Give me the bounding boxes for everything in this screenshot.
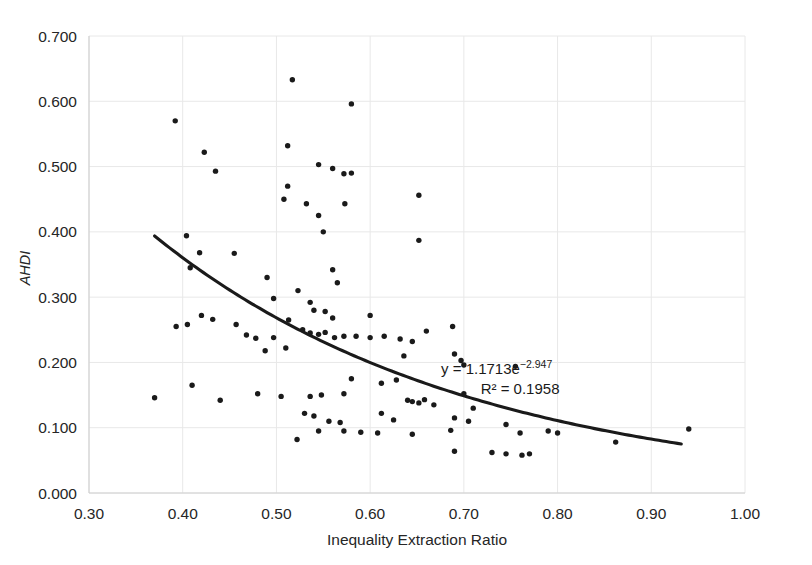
data-point: [450, 324, 455, 329]
x-tick-label: 0.90: [636, 505, 667, 522]
data-point: [382, 334, 387, 339]
y-tick-label: 0.500: [38, 158, 77, 175]
data-point: [290, 77, 295, 82]
equation-base: R² = 0.1958: [481, 380, 560, 397]
equation-annotation: R² = 0.1958: [481, 380, 560, 397]
data-point: [452, 415, 457, 420]
data-point: [517, 430, 522, 435]
axis-lines-group: [89, 36, 745, 493]
data-point: [405, 398, 410, 403]
y-tick-label: 0.400: [38, 223, 77, 240]
data-point: [416, 400, 421, 405]
data-point: [233, 322, 238, 327]
data-point: [294, 437, 299, 442]
data-point: [285, 143, 290, 148]
data-point: [342, 201, 347, 206]
data-points-group: [152, 77, 692, 458]
chart-figure: 0.0000.1000.2000.3000.4000.5000.6000.700…: [0, 0, 812, 565]
annotations-group: y = 1.1713e−2.947R² = 0.1958: [441, 358, 559, 397]
data-point: [255, 391, 260, 396]
exponential-trendline: [155, 236, 682, 444]
data-point: [202, 150, 207, 155]
x-tick-label: 0.70: [449, 505, 480, 522]
data-point: [686, 426, 691, 431]
data-point: [185, 322, 190, 327]
data-point: [197, 250, 202, 255]
data-point: [391, 417, 396, 422]
data-point: [173, 324, 178, 329]
data-point: [330, 166, 335, 171]
data-point: [322, 330, 327, 335]
data-point: [471, 405, 476, 410]
data-point: [232, 251, 237, 256]
y-axis-title: AHDI: [17, 251, 33, 287]
data-point: [244, 332, 249, 337]
data-point: [210, 317, 215, 322]
data-point: [335, 280, 340, 285]
x-tick-label: 1.00: [730, 505, 761, 522]
data-point: [321, 229, 326, 234]
data-point: [394, 377, 399, 382]
data-point: [410, 432, 415, 437]
equation-annotation: y = 1.1713e−2.947: [441, 358, 552, 377]
x-tick-label: 0.80: [542, 505, 573, 522]
data-point: [332, 335, 337, 340]
data-point: [322, 309, 327, 314]
x-axis-title: Inequality Extraction Ratio: [327, 531, 507, 548]
data-point: [283, 345, 288, 350]
data-point: [271, 335, 276, 340]
data-point: [295, 288, 300, 293]
data-point: [337, 420, 342, 425]
x-tick-label: 0.40: [168, 505, 199, 522]
data-point: [184, 233, 189, 238]
data-point: [613, 439, 618, 444]
data-point: [452, 449, 457, 454]
data-point: [218, 398, 223, 403]
data-point: [271, 296, 276, 301]
y-tick-label: 0.100: [38, 419, 77, 436]
y-tick-label: 0.600: [38, 93, 77, 110]
data-point: [410, 339, 415, 344]
data-point: [410, 399, 415, 404]
data-point: [285, 183, 290, 188]
data-point: [503, 451, 508, 456]
data-point: [358, 430, 363, 435]
data-point: [311, 413, 316, 418]
data-point: [452, 351, 457, 356]
data-point: [375, 430, 380, 435]
data-point: [316, 332, 321, 337]
data-point: [527, 451, 532, 456]
data-point: [422, 397, 427, 402]
data-point: [367, 335, 372, 340]
y-tick-label: 0.700: [38, 28, 77, 45]
data-point: [253, 336, 258, 341]
data-point: [330, 267, 335, 272]
data-point: [262, 348, 267, 353]
data-point: [326, 418, 331, 423]
data-point: [330, 315, 335, 320]
data-point: [189, 383, 194, 388]
data-point: [302, 411, 307, 416]
data-point: [466, 418, 471, 423]
x-tick-labels-group: 0.300.400.500.600.700.800.901.00: [74, 505, 761, 522]
data-point: [278, 394, 283, 399]
data-point: [379, 411, 384, 416]
data-point: [353, 334, 358, 339]
data-point: [448, 428, 453, 433]
y-tick-label: 0.300: [38, 289, 77, 306]
data-point: [199, 313, 204, 318]
data-point: [213, 168, 218, 173]
y-tick-labels-group: 0.0000.1000.2000.3000.4000.5000.6000.700: [38, 28, 77, 502]
data-point: [489, 450, 494, 455]
scatter-plot: 0.0000.1000.2000.3000.4000.5000.6000.700…: [0, 0, 812, 565]
data-point: [519, 452, 524, 457]
data-point: [397, 336, 402, 341]
data-point: [367, 313, 372, 318]
data-point: [319, 392, 324, 397]
data-point: [173, 118, 178, 123]
data-point: [264, 275, 269, 280]
data-point: [379, 381, 384, 386]
data-point: [431, 402, 436, 407]
data-point: [307, 394, 312, 399]
data-point: [316, 213, 321, 218]
